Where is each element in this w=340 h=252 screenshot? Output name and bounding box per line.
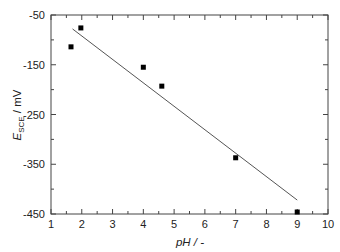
x-tick-label: 9 (294, 218, 300, 230)
fit-line (73, 29, 298, 200)
y-tick-label: -250 (23, 109, 45, 121)
y-tick-label: -150 (23, 59, 45, 71)
x-tick-label: 8 (263, 218, 269, 230)
x-tick-label: 10 (322, 218, 334, 230)
y-axis-title-rest: / mV (11, 89, 23, 116)
data-point (141, 65, 146, 70)
plot-frame (51, 15, 328, 214)
data-point (69, 44, 74, 49)
x-tick-label: 4 (140, 218, 146, 230)
data-point (233, 155, 238, 160)
x-tick-label: 6 (202, 218, 208, 230)
x-tick-label: 7 (233, 218, 239, 230)
data-points (69, 25, 300, 214)
x-tick-label: 1 (48, 218, 54, 230)
y-tick-label: -50 (29, 9, 45, 21)
x-axis: 12345678910 (48, 15, 334, 230)
x-tick-label: 3 (109, 218, 115, 230)
data-point (159, 84, 164, 89)
y-axis-title-sub: SCE (17, 116, 26, 132)
x-tick-label: 5 (171, 218, 177, 230)
x-axis-title: pH / - (175, 236, 204, 248)
data-point (295, 210, 300, 215)
y-tick-label: -350 (23, 158, 45, 170)
y-tick-label: -450 (23, 208, 45, 220)
x-tick-label: 2 (79, 218, 85, 230)
data-point (78, 25, 83, 30)
chart: 12345678910 -50-150-250-350-450 pH / - E… (0, 0, 340, 252)
